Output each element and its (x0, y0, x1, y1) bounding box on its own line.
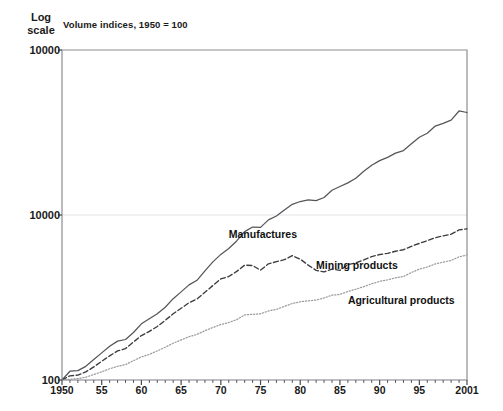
x-axis-tick-label: 1950 (50, 384, 73, 396)
series-label-mining-products: Mining products (316, 259, 398, 271)
x-axis-tick-label: 75 (255, 384, 267, 396)
plot-area (0, 0, 503, 411)
x-axis-tick-label: 70 (215, 384, 227, 396)
x-axis-tick-label: 60 (136, 384, 148, 396)
series-label-manufactures: Manufactures (229, 228, 297, 240)
chart-container: Log scale Volume indices, 1950 = 100 100… (0, 0, 503, 411)
x-axis-tick-label: 90 (374, 384, 386, 396)
y-axis-tick-label: 10000 (8, 209, 60, 221)
y-axis-tick-label: 10000 (8, 44, 60, 56)
x-axis-tick-label: 55 (96, 384, 108, 396)
x-axis-tick-label: 95 (414, 384, 426, 396)
x-axis-tick-label: 80 (294, 384, 306, 396)
x-axis-tick-label: 2001 (455, 384, 478, 396)
y-axis-tick-labels: 1000010000100 (4, 0, 60, 411)
x-axis-tick-label: 65 (175, 384, 187, 396)
series-label-agricultural-products: Agricultural products (348, 294, 455, 306)
series-line-manufactures (62, 111, 467, 380)
x-axis-tick-label: 85 (334, 384, 346, 396)
series-line-agricultural-products (62, 255, 467, 380)
